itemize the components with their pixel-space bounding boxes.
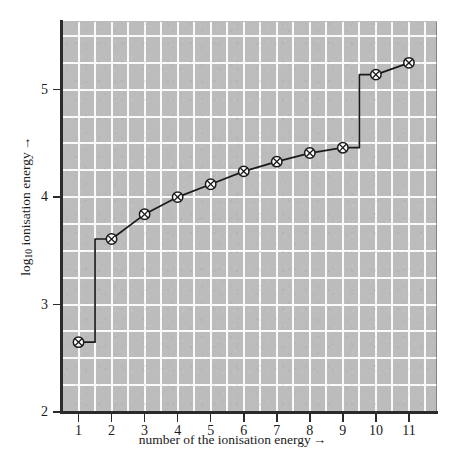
x-axis-tick <box>243 414 245 422</box>
x-axis-title-text: number of the ionisation energy <box>139 432 311 447</box>
gridline-vertical <box>292 22 294 412</box>
gridline-vertical <box>358 22 360 412</box>
plot-area <box>62 22 437 412</box>
chart-figure: 2345 1234567891011 log10 ionisation ener… <box>0 0 465 457</box>
gridline-vertical <box>144 22 146 412</box>
y-axis-line <box>60 20 63 414</box>
gridline-horizontal <box>62 142 437 144</box>
x-axis-tick <box>309 414 311 422</box>
y-axis-title-rest: ionisation energy <box>18 152 33 248</box>
gridline-vertical <box>325 22 327 412</box>
gridline-vertical <box>177 22 179 412</box>
y-axis-tick <box>53 89 61 91</box>
plot-top-edge <box>62 21 437 22</box>
gridline-vertical <box>309 22 311 412</box>
gridline-horizontal <box>62 196 437 198</box>
gridline-vertical <box>111 22 113 412</box>
y-axis-title: log10 ionisation energy→ <box>18 106 35 306</box>
gridline-horizontal <box>62 304 437 306</box>
gridline-vertical <box>391 22 393 412</box>
y-axis-title-subscript: 10 <box>24 249 34 259</box>
gridline-vertical <box>193 22 195 412</box>
gridline-horizontal <box>62 89 437 91</box>
x-axis-tick <box>144 414 146 422</box>
gridline-horizontal <box>62 223 437 225</box>
gridline-horizontal <box>62 250 437 252</box>
gridline-vertical <box>259 22 261 412</box>
gridline-vertical <box>243 22 245 412</box>
x-axis-title-arrow: → <box>311 432 327 447</box>
y-axis-title-arrow: → <box>18 137 33 153</box>
paper-texture <box>62 22 437 412</box>
gridline-vertical <box>160 22 162 412</box>
gridline-horizontal <box>62 169 437 171</box>
x-axis-tick <box>375 414 377 422</box>
y-axis-tick <box>53 304 61 306</box>
x-axis-tick <box>177 414 179 422</box>
x-axis-tick <box>210 414 212 422</box>
x-axis-tick <box>276 414 278 422</box>
gridline-horizontal <box>62 62 437 64</box>
gridline-vertical <box>210 22 212 412</box>
x-axis-tick <box>111 414 113 422</box>
x-axis-title: number of the ionisation energy→ <box>0 432 465 448</box>
gridline-vertical <box>78 22 80 412</box>
x-axis-tick <box>78 414 80 422</box>
gridline-horizontal <box>62 330 437 332</box>
gridline-vertical <box>424 22 426 412</box>
gridline-vertical <box>342 22 344 412</box>
x-axis-line <box>60 411 438 414</box>
gridline-horizontal <box>62 116 437 118</box>
y-axis-tick <box>53 196 61 198</box>
y-axis-tick-label: 5 <box>26 83 48 97</box>
gridline-vertical <box>408 22 410 412</box>
gridline-vertical <box>375 22 377 412</box>
gridline-horizontal <box>62 384 437 386</box>
gridline-horizontal <box>62 357 437 359</box>
x-axis-tick <box>342 414 344 422</box>
plot-right-edge <box>436 22 437 412</box>
y-axis-tick-label: 2 <box>26 405 48 419</box>
gridline-horizontal <box>62 277 437 279</box>
y-axis-tick <box>53 411 61 413</box>
y-axis-title-log: log <box>18 259 33 276</box>
gridline-vertical <box>276 22 278 412</box>
gridline-vertical <box>226 22 228 412</box>
gridline-horizontal <box>62 35 437 37</box>
gridline-vertical <box>94 22 96 412</box>
gridline-vertical <box>127 22 129 412</box>
x-axis-tick <box>408 414 410 422</box>
